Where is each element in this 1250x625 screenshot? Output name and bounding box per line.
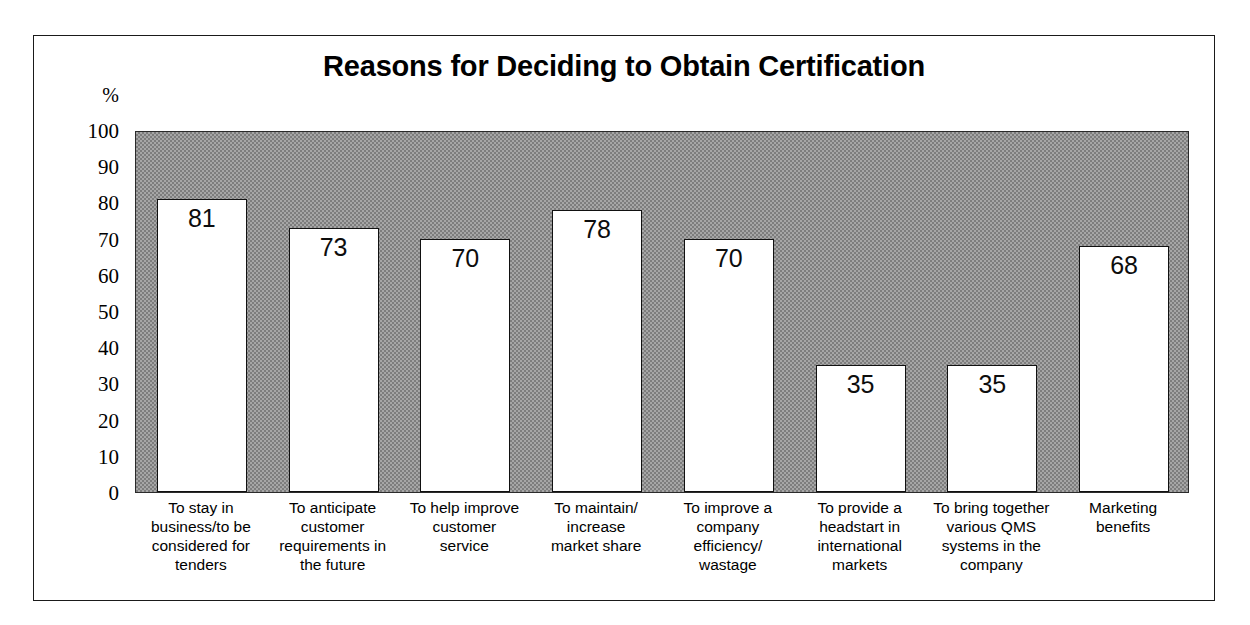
bar-slot: 73 (289, 132, 379, 492)
bar-value-label: 81 (158, 206, 246, 231)
bar[interactable]: 78 (552, 210, 642, 492)
x-tick-label-line: systems in the (927, 536, 1055, 555)
x-tick-label: To maintain/increasemarket share (532, 498, 660, 555)
bar-slot: 70 (420, 132, 510, 492)
x-tick-label-line: the future (269, 555, 397, 574)
x-tick-label-line: To bring together (927, 498, 1055, 517)
chart-figure: Reasons for Deciding to Obtain Certifica… (33, 35, 1215, 601)
bar[interactable]: 35 (947, 365, 1037, 492)
x-tick-label-line: company (664, 517, 792, 536)
x-tick-label-line: To maintain/ (532, 498, 660, 517)
y-tick-label: 0 (109, 481, 120, 506)
x-axis: To stay inbusiness/to beconsidered forte… (135, 496, 1189, 596)
x-tick-label: To help improvecustomerservice (400, 498, 528, 555)
bar-value-label: 68 (1080, 253, 1168, 278)
x-tick-label-line: wastage (664, 555, 792, 574)
x-tick-label-line: Marketing (1059, 498, 1187, 517)
y-tick-label: 60 (98, 263, 119, 288)
x-tick-label: To provide aheadstart ininternationalmar… (796, 498, 924, 574)
x-tick-label-line: To stay in (137, 498, 265, 517)
bar-slot: 35 (816, 132, 906, 492)
bar-value-label: 35 (817, 372, 905, 397)
x-tick-label-line: To provide a (796, 498, 924, 517)
x-tick-label: To anticipatecustomerrequirements inthe … (269, 498, 397, 574)
bar-value-label: 35 (948, 372, 1036, 397)
bar-series: 8173707870353568 (136, 132, 1188, 492)
x-tick-label-line: considered for (137, 536, 265, 555)
plot-area: 8173707870353568 (135, 131, 1189, 493)
x-tick-label-line: requirements in (269, 536, 397, 555)
x-tick-label-line: To improve a (664, 498, 792, 517)
x-tick-label-line: increase (532, 517, 660, 536)
x-tick-label-line: customer (269, 517, 397, 536)
bar[interactable]: 81 (157, 199, 247, 492)
y-tick-label: 40 (98, 336, 119, 361)
y-tick-label: 80 (98, 191, 119, 216)
bar-value-label: 70 (685, 246, 773, 271)
bar-value-label: 78 (553, 217, 641, 242)
y-tick-label: 30 (98, 372, 119, 397)
x-tick-label: Marketingbenefits (1059, 498, 1187, 536)
bar[interactable]: 70 (684, 239, 774, 492)
x-tick-label-line: service (400, 536, 528, 555)
x-tick-label-line: various QMS (927, 517, 1055, 536)
bar-slot: 81 (157, 132, 247, 492)
bar-value-label: 70 (421, 246, 509, 271)
x-tick-label: To bring togethervarious QMSsystems in t… (927, 498, 1055, 574)
y-axis-unit-label: % (102, 84, 119, 107)
bar-value-label: 73 (290, 235, 378, 260)
x-tick-label-line: international (796, 536, 924, 555)
x-tick-label-line: business/to be (137, 517, 265, 536)
x-tick-label-line: To help improve (400, 498, 528, 517)
y-tick-label: 70 (98, 227, 119, 252)
y-tick-label: 20 (98, 408, 119, 433)
page-title: Reasons for Deciding to Obtain Certifica… (34, 50, 1214, 83)
x-tick-label-line: tenders (137, 555, 265, 574)
x-tick-label-line: customer (400, 517, 528, 536)
bar[interactable]: 68 (1079, 246, 1169, 492)
x-tick-label-line: To anticipate (269, 498, 397, 517)
x-tick-label-line: efficiency/ (664, 536, 792, 555)
x-tick-label-line: benefits (1059, 517, 1187, 536)
x-tick-label-line: market share (532, 536, 660, 555)
x-tick-label-line: headstart in (796, 517, 924, 536)
bar[interactable]: 70 (420, 239, 510, 492)
bar[interactable]: 35 (816, 365, 906, 492)
y-tick-label: 90 (98, 155, 119, 180)
y-tick-label: 100 (88, 119, 120, 144)
bar-slot: 70 (684, 132, 774, 492)
x-tick-label: To improve acompanyefficiency/wastage (664, 498, 792, 574)
bar[interactable]: 73 (289, 228, 379, 492)
y-tick-label: 10 (98, 444, 119, 469)
bar-slot: 35 (947, 132, 1037, 492)
y-tick-label: 50 (98, 300, 119, 325)
y-axis: % 1009080706050403020100 (34, 36, 135, 602)
bar-slot: 68 (1079, 132, 1169, 492)
x-tick-label-line: company (927, 555, 1055, 574)
x-tick-label: To stay inbusiness/to beconsidered forte… (137, 498, 265, 574)
bar-slot: 78 (552, 132, 642, 492)
x-tick-label-line: markets (796, 555, 924, 574)
